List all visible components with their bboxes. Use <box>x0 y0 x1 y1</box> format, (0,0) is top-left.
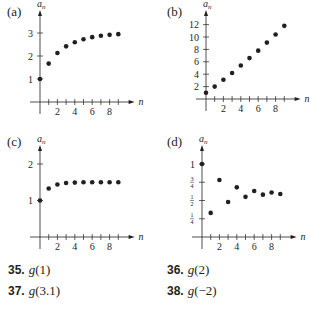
y-tick-label: 2 <box>28 51 33 62</box>
y-axis-label: an <box>203 0 212 11</box>
y-tick-label: 4 <box>194 69 199 80</box>
chart-d: (d) nan24681412341 <box>155 130 310 260</box>
data-point <box>38 198 43 203</box>
exercise-35: 35.g(1) <box>8 262 50 278</box>
exercise-number: 37. <box>8 284 25 298</box>
data-point <box>73 180 78 185</box>
exercise-number: 38. <box>167 284 184 298</box>
data-point <box>99 33 104 38</box>
x-tick-label: 8 <box>273 103 278 114</box>
data-point <box>116 180 121 185</box>
chart-b-svg: nan246824681012 <box>155 0 310 130</box>
x-tick-label: 2 <box>217 241 222 252</box>
y-tick-label: 4 <box>191 183 194 189</box>
x-tick-label: 6 <box>256 103 261 114</box>
x-tick-label: 8 <box>107 106 112 117</box>
x-tick-label: 6 <box>90 241 95 252</box>
data-point <box>239 63 244 68</box>
data-point <box>55 51 60 56</box>
y-tick-label: 8 <box>194 44 199 55</box>
data-point <box>204 91 209 96</box>
x-tick-label: 2 <box>221 103 226 114</box>
data-point <box>90 35 95 40</box>
x-tick-label: 4 <box>234 241 239 252</box>
x-tick-label: 8 <box>107 241 112 252</box>
data-point <box>73 40 78 45</box>
y-tick-label: 1 <box>28 74 33 85</box>
data-point <box>90 180 95 185</box>
exercise-37: 37.g(3.1) <box>8 283 60 299</box>
y-axis-label: an <box>199 133 208 146</box>
data-point <box>247 56 252 61</box>
x-tick-label: 4 <box>72 106 77 117</box>
data-point <box>269 190 274 195</box>
data-point <box>116 32 121 37</box>
x-tick-label: 8 <box>269 241 274 252</box>
data-point <box>64 44 69 49</box>
chart-c: (c) nan246812 <box>0 130 155 260</box>
x-tick-label: 6 <box>90 106 95 117</box>
function-arg: (1) <box>35 262 50 277</box>
data-point <box>282 24 287 29</box>
data-point <box>81 37 86 42</box>
x-axis-label: n <box>139 231 144 242</box>
data-point <box>46 61 51 66</box>
y-tick-label: 1 <box>28 195 33 206</box>
y-tick-label: 3 <box>28 28 33 39</box>
x-tick-label: 2 <box>55 106 60 117</box>
data-point <box>208 211 213 216</box>
exercise-number: 35. <box>8 263 25 277</box>
data-point <box>107 33 112 38</box>
data-point <box>64 181 69 186</box>
data-point <box>217 178 222 183</box>
function-arg: (−2) <box>194 283 217 298</box>
data-point <box>226 200 231 205</box>
data-point <box>230 71 235 76</box>
data-point <box>265 40 270 45</box>
y-tick-label: 12 <box>189 19 199 30</box>
y-tick-label: 1 <box>191 212 194 218</box>
x-axis-arrow-icon <box>291 235 297 239</box>
y-axis-label: an <box>37 133 46 146</box>
data-point <box>256 48 261 53</box>
y-tick-label: 2 <box>191 201 194 207</box>
y-tick-label: 3 <box>191 176 194 182</box>
data-point <box>212 84 217 89</box>
data-point <box>200 162 205 167</box>
data-point <box>278 192 283 197</box>
data-point <box>252 189 257 194</box>
x-axis-arrow-icon <box>129 100 135 104</box>
function-arg: (2) <box>194 262 209 277</box>
x-axis-label: n <box>301 231 306 242</box>
exercise-number: 36. <box>167 263 184 277</box>
chart-a: (a) nan2468123 <box>0 0 155 130</box>
data-point <box>38 77 43 82</box>
chart-b: (b) nan246824681012 <box>155 0 310 130</box>
chart-a-svg: nan2468123 <box>0 0 155 130</box>
y-axis-label: an <box>37 0 46 11</box>
exercise-36: 36.g(2) <box>167 262 209 278</box>
y-tick-label: 4 <box>191 219 194 225</box>
data-point <box>235 185 240 190</box>
data-point <box>261 192 266 197</box>
y-tick-label: 6 <box>194 56 199 67</box>
x-axis-arrow-icon <box>295 97 301 101</box>
y-tick-label: 1 <box>191 194 194 200</box>
function-arg: (3.1) <box>35 283 60 298</box>
x-axis-label: n <box>139 96 144 107</box>
x-axis-arrow-icon <box>129 235 135 239</box>
y-tick-label: 1 <box>190 159 195 170</box>
data-point <box>55 182 60 187</box>
x-tick-label: 4 <box>72 241 77 252</box>
data-point <box>81 180 86 185</box>
data-point <box>107 180 112 185</box>
data-point <box>99 180 104 185</box>
data-point <box>46 186 51 191</box>
data-point <box>273 32 278 37</box>
y-tick-label: 2 <box>194 81 199 92</box>
data-point <box>243 195 248 200</box>
y-tick-label: 10 <box>189 32 199 43</box>
y-tick-label: 2 <box>28 159 33 170</box>
chart-c-svg: nan246812 <box>0 130 155 260</box>
data-point <box>221 77 226 82</box>
